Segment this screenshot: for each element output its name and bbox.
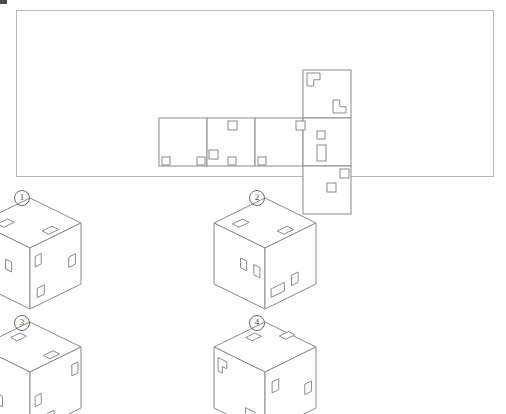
- option-3-cube[interactable]: [0, 322, 81, 414]
- net-mark-B-square-2: [228, 157, 236, 165]
- net-mark-E-rect-1: [317, 145, 326, 161]
- net-mark-C-square-0: [296, 121, 305, 130]
- option-3-right-mark-0: [35, 393, 41, 406]
- answer-options-area: [0, 180, 506, 414]
- net-mark-B-square-0: [228, 121, 237, 130]
- option-2-left-mark-1: [254, 264, 260, 277]
- option-2-label[interactable]: 2: [249, 190, 265, 206]
- net-mark-C-square-1: [258, 157, 266, 165]
- option-1-cube[interactable]: [0, 198, 81, 309]
- option-3-right-mark-2: [72, 362, 78, 376]
- option-3-label[interactable]: 3: [14, 315, 30, 331]
- options-svg-canvas: [0, 180, 506, 414]
- option-4-cube[interactable]: [214, 322, 316, 414]
- net-cell-back-face: [303, 118, 351, 166]
- net-mark-B-square-1: [209, 150, 218, 159]
- option-4-label[interactable]: 4: [249, 315, 265, 331]
- option-1-right-mark-0: [35, 253, 41, 266]
- option-1-label[interactable]: 1: [14, 190, 30, 206]
- net-mark-F-square-0: [340, 169, 349, 178]
- net-mark-A-square-0: [162, 157, 170, 165]
- net-svg-canvas: [16, 10, 494, 177]
- option-3-number: 3: [14, 315, 30, 331]
- net-mark-E-square-0: [317, 131, 325, 139]
- cube-net-diagram: [16, 10, 494, 177]
- option-2-number: 2: [249, 190, 265, 206]
- crop-artifact-icon: [0, 0, 7, 4]
- net-mark-A-square-1: [197, 157, 205, 165]
- puzzle-stage: 1 2 3 4: [0, 0, 506, 414]
- option-2-cube[interactable]: [214, 198, 316, 309]
- option-1-number: 1: [14, 190, 30, 206]
- option-4-number: 4: [249, 315, 265, 331]
